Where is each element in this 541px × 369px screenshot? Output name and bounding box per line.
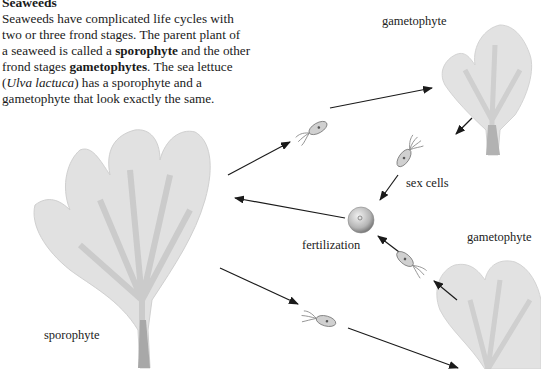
label-gametophyte-top: gametophyte bbox=[382, 14, 447, 29]
arrow-sexcell-to-egg bbox=[380, 175, 398, 200]
gametophyte-top-frond-icon bbox=[442, 25, 531, 155]
spore-cell-top-icon bbox=[295, 119, 330, 146]
label-fertilization: fertilization bbox=[302, 238, 360, 253]
label-gametophyte-bottom: gametophyte bbox=[467, 230, 532, 245]
arrow-sporophyte-to-spore-bottom bbox=[220, 268, 298, 304]
label-sporophyte: sporophyte bbox=[44, 328, 100, 343]
arrow-spore-to-gametophyte-top bbox=[330, 88, 432, 108]
fertilized-egg-icon bbox=[348, 207, 374, 233]
sex-cell-lower-icon bbox=[394, 249, 427, 279]
gametophyte-bottom-frond-icon bbox=[437, 261, 541, 369]
arrow-gametophyte-to-sexcell-top bbox=[456, 118, 472, 134]
sex-cell-upper-icon bbox=[393, 134, 425, 171]
arrow-sporophyte-to-spore-top bbox=[228, 142, 290, 175]
arrow-spore-to-gametophyte-bottom bbox=[348, 328, 458, 368]
life-cycle-diagram bbox=[0, 0, 541, 369]
label-sex-cells: sex cells bbox=[406, 176, 449, 191]
arrow-egg-to-sporophyte bbox=[235, 198, 345, 218]
spore-cell-bottom-icon bbox=[300, 310, 337, 331]
